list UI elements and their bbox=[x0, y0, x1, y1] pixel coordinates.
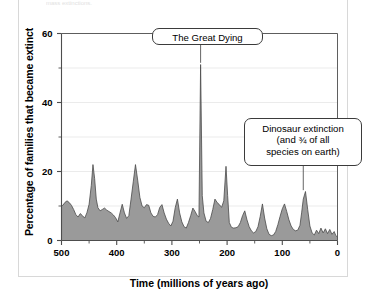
annotation-dinosaur-extinction: Dinosaur extinction (and ¾ of all specie… bbox=[244, 118, 362, 166]
x-tick-label-100: 100 bbox=[267, 247, 297, 258]
annotation-great-dying: The Great Dying bbox=[152, 28, 263, 45]
y-axis-title: Percentage of families that became extin… bbox=[22, 27, 36, 237]
y-tick-label-20: 20 bbox=[31, 166, 53, 177]
y-tick-label-60: 60 bbox=[31, 28, 53, 39]
x-tick-label-0: 0 bbox=[323, 247, 353, 258]
annotation-dinosaur-line-3: species on earth) bbox=[245, 146, 361, 157]
x-tick-label-500: 500 bbox=[47, 247, 77, 258]
x-tick-label-200: 200 bbox=[212, 247, 242, 258]
x-tick-label-300: 300 bbox=[157, 247, 187, 258]
annotation-dinosaur-line-2: (and ¾ of all bbox=[245, 134, 361, 145]
y-tick-label-0: 0 bbox=[31, 235, 53, 246]
extinction-rate-figure: mass extinctions. Percentage of families… bbox=[0, 0, 365, 303]
x-tick-label-400: 400 bbox=[102, 247, 132, 258]
y-tick-label-40: 40 bbox=[31, 97, 53, 108]
annotation-dinosaur-line-1: Dinosaur extinction bbox=[245, 123, 361, 134]
x-axis-title: Time (millions of years ago) bbox=[61, 276, 337, 290]
